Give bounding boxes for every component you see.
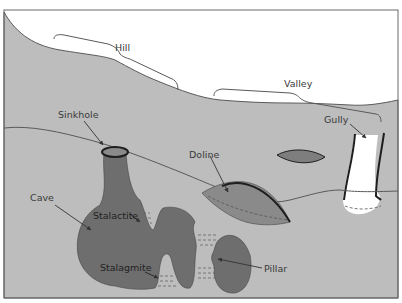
- karst-diagram: Hill Valley Sinkhole Doline Gully Cave S…: [0, 0, 402, 303]
- pillar-label: Pillar: [264, 263, 287, 274]
- sinkhole-opening: [102, 147, 128, 157]
- gully-label: Gully: [324, 114, 349, 125]
- hill-label: Hill: [115, 42, 130, 53]
- valley-label: Valley: [284, 78, 313, 89]
- doline-label: Doline: [189, 149, 219, 160]
- stalagmite-label: Stalagmite: [100, 262, 152, 273]
- cave-label: Cave: [30, 192, 54, 203]
- sinkhole-label: Sinkhole: [58, 109, 99, 120]
- stalactite-label: Stalactite: [93, 210, 138, 221]
